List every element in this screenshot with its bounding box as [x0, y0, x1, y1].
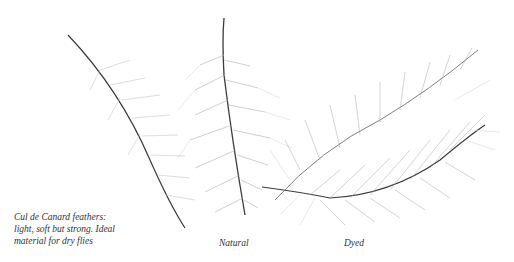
feather-description-caption: Cul de Canard feathers: light, soft but … [14, 211, 134, 247]
dyed-label: Dyed [344, 237, 364, 249]
natural-feather-middle [178, 18, 292, 215]
feather-illustration: Cul de Canard feathers: light, soft but … [0, 0, 514, 262]
caption-line-3: material for dry flies [14, 235, 134, 247]
dyed-feather [262, 48, 500, 225]
natural-feather-left [68, 35, 195, 228]
caption-line-1: Cul de Canard feathers: [14, 211, 134, 223]
caption-line-2: light, soft but strong. Ideal [14, 223, 134, 235]
natural-label: Natural [219, 237, 249, 249]
